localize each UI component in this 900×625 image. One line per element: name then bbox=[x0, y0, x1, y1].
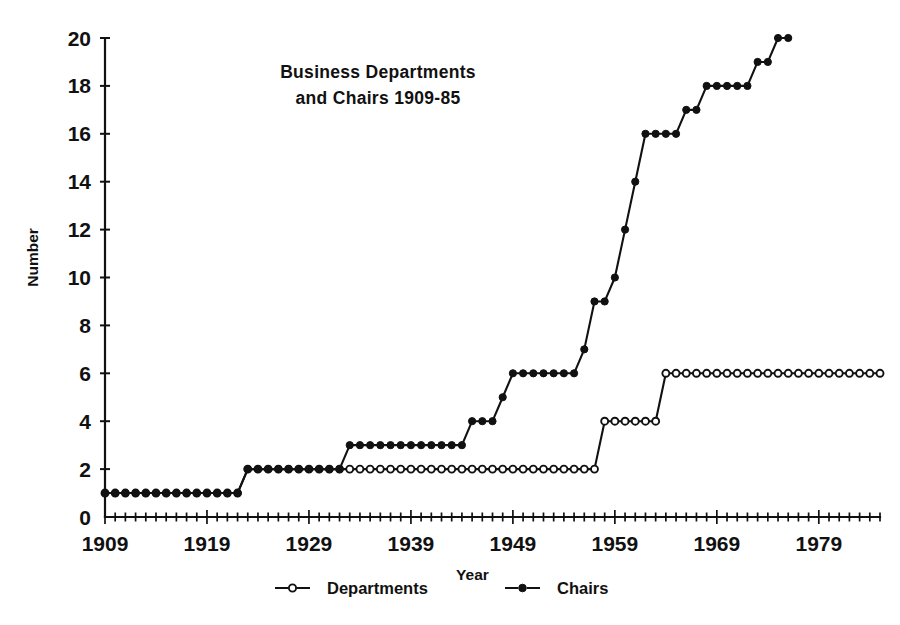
y-tick-label-10: 10 bbox=[68, 266, 91, 289]
chart-title-line-2: and Chairs 1909-85 bbox=[296, 88, 461, 108]
marker-departments-1984 bbox=[866, 370, 873, 377]
marker-chairs-1959 bbox=[611, 274, 618, 281]
marker-departments-1939 bbox=[407, 466, 414, 473]
marker-departments-1957 bbox=[591, 466, 598, 473]
marker-chairs-1954 bbox=[560, 370, 567, 377]
marker-chairs-1913 bbox=[142, 489, 149, 496]
x-tick-label-1929: 1929 bbox=[286, 532, 333, 555]
marker-chairs-1935 bbox=[367, 442, 374, 449]
marker-chairs-1969 bbox=[713, 82, 720, 89]
marker-departments-1964 bbox=[662, 370, 669, 377]
x-tick-label-1979: 1979 bbox=[795, 532, 842, 555]
y-tick-label-14: 14 bbox=[68, 170, 92, 193]
marker-departments-1947 bbox=[489, 466, 496, 473]
marker-departments-1933 bbox=[346, 466, 353, 473]
marker-departments-1935 bbox=[367, 466, 374, 473]
marker-departments-1961 bbox=[632, 418, 639, 425]
marker-chairs-1916 bbox=[173, 489, 180, 496]
marker-departments-1955 bbox=[571, 466, 578, 473]
marker-departments-1958 bbox=[601, 418, 608, 425]
marker-departments-1982 bbox=[846, 370, 853, 377]
y-tick-label-2: 2 bbox=[79, 458, 91, 481]
marker-departments-1967 bbox=[693, 370, 700, 377]
marker-chairs-1940 bbox=[418, 442, 425, 449]
marker-chairs-1918 bbox=[193, 489, 200, 496]
marker-departments-1953 bbox=[550, 466, 557, 473]
marker-departments-1934 bbox=[356, 466, 363, 473]
marker-departments-1956 bbox=[581, 466, 588, 473]
marker-chairs-1953 bbox=[550, 370, 557, 377]
marker-chairs-1931 bbox=[326, 466, 333, 473]
marker-chairs-1928 bbox=[295, 466, 302, 473]
legend-marker-filled-circle-icon bbox=[519, 584, 527, 592]
marker-chairs-1910 bbox=[112, 489, 119, 496]
marker-chairs-1921 bbox=[224, 489, 231, 496]
marker-chairs-1952 bbox=[540, 370, 547, 377]
marker-departments-1970 bbox=[724, 370, 731, 377]
x-tick-label-1969: 1969 bbox=[693, 532, 740, 555]
line-chart: 0246810121416182019091919192919391949195… bbox=[0, 0, 900, 625]
marker-chairs-1968 bbox=[703, 82, 710, 89]
marker-chairs-1922 bbox=[234, 489, 241, 496]
marker-departments-1981 bbox=[836, 370, 843, 377]
marker-chairs-1929 bbox=[305, 466, 312, 473]
marker-departments-1969 bbox=[713, 370, 720, 377]
marker-chairs-1975 bbox=[774, 34, 781, 41]
marker-chairs-1960 bbox=[621, 226, 628, 233]
marker-chairs-1925 bbox=[265, 466, 272, 473]
x-tick-label-1919: 1919 bbox=[184, 532, 231, 555]
marker-chairs-1944 bbox=[458, 442, 465, 449]
chart-figure: 0246810121416182019091919192919391949195… bbox=[0, 0, 900, 625]
marker-departments-1945 bbox=[469, 466, 476, 473]
marker-departments-1976 bbox=[785, 370, 792, 377]
marker-chairs-1941 bbox=[428, 442, 435, 449]
marker-chairs-1914 bbox=[152, 489, 159, 496]
axes bbox=[100, 38, 880, 524]
marker-chairs-1971 bbox=[734, 82, 741, 89]
marker-chairs-1970 bbox=[723, 82, 730, 89]
x-tick-label-1939: 1939 bbox=[388, 532, 435, 555]
marker-chairs-1974 bbox=[764, 58, 771, 65]
marker-chairs-1942 bbox=[438, 442, 445, 449]
marker-chairs-1949 bbox=[509, 370, 516, 377]
marker-chairs-1948 bbox=[499, 394, 506, 401]
marker-chairs-1945 bbox=[469, 418, 476, 425]
y-tick-label-0: 0 bbox=[79, 506, 91, 529]
marker-chairs-1939 bbox=[407, 442, 414, 449]
data-series bbox=[101, 34, 883, 496]
marker-chairs-1924 bbox=[254, 466, 261, 473]
marker-chairs-1943 bbox=[448, 442, 455, 449]
marker-departments-1971 bbox=[734, 370, 741, 377]
marker-chairs-1964 bbox=[662, 130, 669, 137]
marker-departments-1972 bbox=[744, 370, 751, 377]
y-tick-label-6: 6 bbox=[79, 362, 91, 385]
marker-departments-1960 bbox=[622, 418, 629, 425]
x-tick-label-1909: 1909 bbox=[82, 532, 129, 555]
marker-chairs-1934 bbox=[356, 442, 363, 449]
marker-departments-1963 bbox=[652, 418, 659, 425]
marker-chairs-1967 bbox=[693, 106, 700, 113]
marker-departments-1949 bbox=[509, 466, 516, 473]
marker-chairs-1958 bbox=[601, 298, 608, 305]
x-axis-title: Year bbox=[456, 566, 489, 583]
marker-departments-1980 bbox=[826, 370, 833, 377]
marker-departments-1983 bbox=[856, 370, 863, 377]
marker-departments-1973 bbox=[754, 370, 761, 377]
marker-chairs-1966 bbox=[683, 106, 690, 113]
marker-chairs-1951 bbox=[530, 370, 537, 377]
marker-chairs-1936 bbox=[377, 442, 384, 449]
series-line-departments bbox=[105, 373, 880, 493]
marker-departments-1952 bbox=[540, 466, 547, 473]
axis-labels: 0246810121416182019091919192919391949195… bbox=[24, 27, 842, 584]
marker-chairs-1926 bbox=[275, 466, 282, 473]
marker-departments-1938 bbox=[397, 466, 404, 473]
marker-departments-1948 bbox=[499, 466, 506, 473]
marker-departments-1941 bbox=[428, 466, 435, 473]
y-tick-label-8: 8 bbox=[79, 314, 91, 337]
marker-chairs-1938 bbox=[397, 442, 404, 449]
x-tick-label-1949: 1949 bbox=[490, 532, 537, 555]
marker-departments-1962 bbox=[642, 418, 649, 425]
marker-chairs-1912 bbox=[132, 489, 139, 496]
marker-chairs-1973 bbox=[754, 58, 761, 65]
marker-chairs-1963 bbox=[652, 130, 659, 137]
